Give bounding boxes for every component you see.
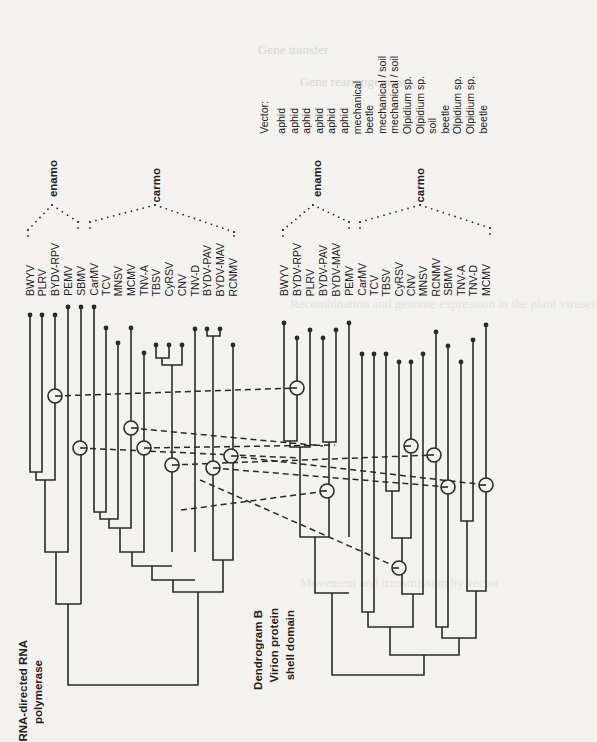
dendrogram-b-leaf-tips — [282, 321, 489, 365]
dendrogram-b-branches — [284, 323, 486, 675]
recombination-markers — [48, 381, 493, 575]
group-brackets — [27, 204, 491, 237]
dendrogram-a-branches — [30, 307, 233, 685]
